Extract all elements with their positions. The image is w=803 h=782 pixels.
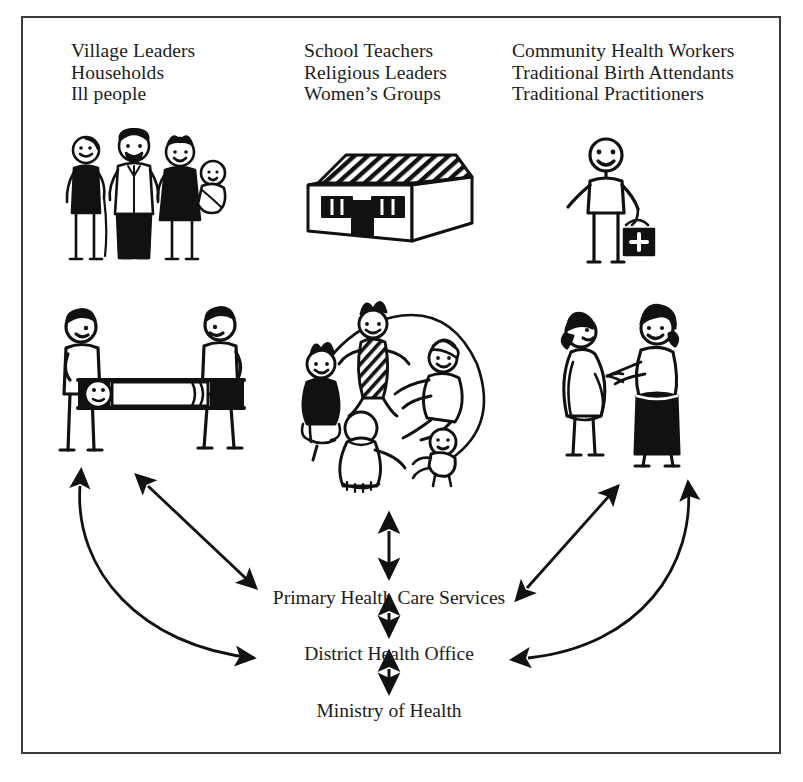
school-building-illustration [296, 145, 486, 255]
community-health-worker-illustration [556, 133, 666, 283]
node-label-primary-health-care-services: Primary Health Care Services [273, 587, 505, 609]
birth-attendant-illustration [545, 300, 725, 485]
node-label-ministry-of-health: Ministry of Health [316, 700, 461, 722]
column-heading-social: School Teachers Religious Leaders Women’… [304, 40, 447, 105]
womens-group-illustration [283, 292, 503, 500]
diagram-canvas: Village Leaders Households Ill people Sc… [0, 0, 803, 782]
family-group-illustration [52, 128, 242, 278]
stretcher-illustration [48, 300, 278, 480]
column-heading-providers: Community Health Workers Traditional Bir… [512, 40, 735, 105]
column-heading-community: Village Leaders Households Ill people [71, 40, 195, 105]
node-label-district-health-office: District Health Office [304, 643, 474, 665]
